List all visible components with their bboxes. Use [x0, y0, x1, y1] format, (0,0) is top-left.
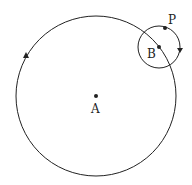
point-a	[94, 94, 98, 98]
diagram-canvas: A B P	[0, 0, 192, 185]
label-p: P	[168, 13, 176, 27]
label-b: B	[147, 47, 156, 61]
label-a: A	[90, 102, 100, 116]
point-b	[157, 45, 161, 49]
point-p	[163, 26, 167, 30]
arrow-down-icon	[177, 48, 183, 53]
